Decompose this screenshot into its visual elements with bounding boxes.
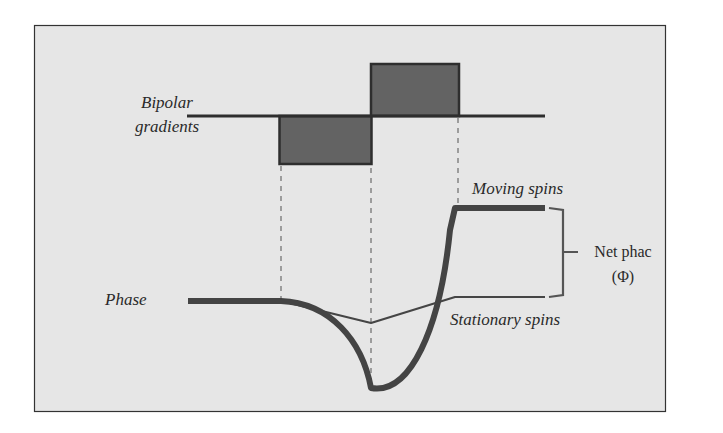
stationary-spins-label: Stationary spins xyxy=(450,310,560,329)
net-phase-label-line1: Net phac xyxy=(594,243,651,261)
diagram-frame xyxy=(35,26,666,412)
phase-label: Phase xyxy=(104,290,147,309)
bipolar-label-line1: Bipolar xyxy=(141,93,193,112)
negative-gradient-lobe xyxy=(280,116,372,164)
positive-gradient-lobe xyxy=(371,64,459,116)
bipolar-gradient-diagram: Bipolar gradients Phase Moving spins Sta… xyxy=(0,0,723,433)
net-phase-label-line2: (Φ) xyxy=(612,268,634,286)
moving-spins-label: Moving spins xyxy=(471,179,564,198)
bipolar-label-line2: gradients xyxy=(135,117,200,136)
